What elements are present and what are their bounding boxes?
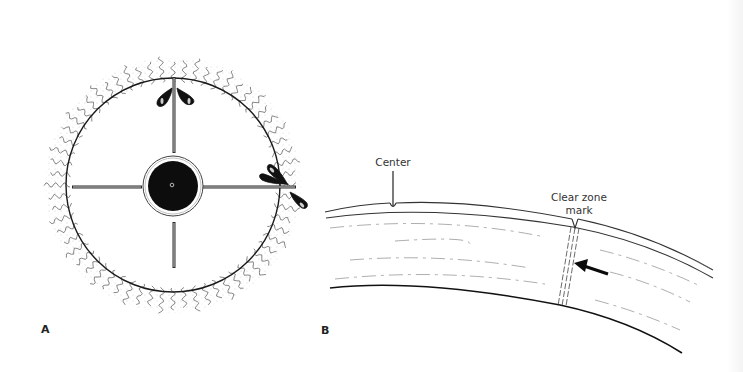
panel-label-b: B [321,324,329,337]
center-label: Center [370,156,416,169]
page-edge-shadow [727,0,743,372]
inner-surface-line [326,212,713,278]
clear-zone-label-line2: mark [548,204,610,217]
clear-zone-arrow-icon [574,259,608,274]
panel-b-diagram [325,171,713,353]
back-surface-line [330,285,682,353]
clear-zone-label: Clear zone mark [548,191,610,217]
clear-zone-label-line1: Clear zone [548,191,610,204]
panel-a-diagram [44,57,307,314]
figure-canvas [0,0,743,372]
internal-layer-dashes [330,224,700,331]
panel-label-a: A [41,323,50,336]
clear-zone-band [558,227,579,306]
